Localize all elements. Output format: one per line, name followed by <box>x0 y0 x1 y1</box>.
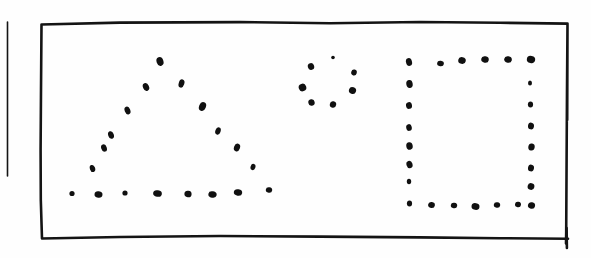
dot-mark <box>331 56 335 60</box>
dot-mark <box>407 179 411 185</box>
dot-mark <box>528 80 532 85</box>
sketch-canvas <box>0 0 591 258</box>
dot-mark <box>528 102 533 108</box>
dot-mark <box>122 190 127 195</box>
sketch-drawing <box>0 0 591 258</box>
dot-mark <box>407 201 412 207</box>
paper-background <box>0 0 591 258</box>
dot-mark <box>69 191 74 196</box>
